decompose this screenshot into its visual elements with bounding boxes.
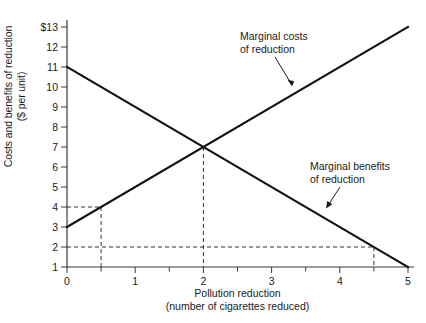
data-series	[67, 27, 408, 267]
series-marginal-costs-line	[67, 27, 408, 227]
y-tick-label-3: 3	[52, 221, 58, 233]
annotation-label-marginal-costs: Marginal costs of reduction	[240, 30, 308, 55]
axes	[66, 20, 414, 268]
y-axis-label: Costs and benefits of reduction ($ per u…	[2, 0, 27, 197]
chart-figure: $13 12 11 10 9 8 7 6 5 4 3 2 1	[0, 0, 426, 323]
x-tick-label-0: 0	[64, 275, 70, 287]
y-axis-ticks	[61, 27, 67, 267]
annotation-arrowhead-marginal-benefits	[326, 201, 332, 209]
x-tick-label-4: 4	[337, 275, 343, 287]
x-tick-label-5: 5	[405, 275, 411, 287]
y-tick-label-2: 2	[52, 241, 58, 253]
y-tick-label-9: 9	[52, 101, 58, 113]
y-tick-label-8: 8	[52, 121, 58, 133]
annotation-arrowhead-marginal-costs	[288, 80, 295, 87]
y-tick-label-11: 11	[47, 61, 58, 73]
y-tick-label-5: 5	[52, 181, 58, 193]
x-axis-tick-labels: 0 1 2 3 4 5	[64, 275, 411, 287]
y-tick-label-12: 12	[46, 41, 58, 53]
x-tick-label-3: 3	[269, 275, 275, 287]
x-tick-label-1: 1	[132, 275, 138, 287]
y-tick-label-13: $13	[40, 21, 58, 33]
y-tick-label-1: 1	[52, 261, 58, 273]
y-tick-label-6: 6	[52, 161, 58, 173]
x-axis-ticks	[67, 267, 408, 273]
annotation-label-marginal-benefits: Marginal benefits of reduction	[310, 160, 390, 185]
x-axis-label: Pollution reduction (number of cigarette…	[67, 287, 408, 312]
y-tick-label-10: 10	[46, 81, 58, 93]
y-tick-label-7: 7	[52, 141, 58, 153]
y-axis-tick-labels: $13 12 11 10 9 8 7 6 5 4 3 2 1	[40, 21, 58, 273]
annotation-arrows	[275, 57, 340, 209]
x-tick-label-2: 2	[200, 275, 206, 287]
y-tick-label-4: 4	[52, 201, 58, 213]
